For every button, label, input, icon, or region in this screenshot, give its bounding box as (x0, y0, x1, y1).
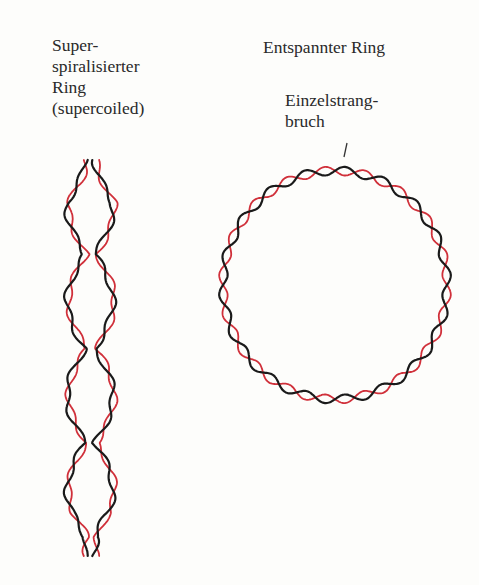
relaxed-ring-dna (219, 167, 451, 403)
supercoiled-dna (64, 160, 118, 556)
nick-marker (344, 143, 347, 157)
dna-diagram (0, 0, 479, 585)
